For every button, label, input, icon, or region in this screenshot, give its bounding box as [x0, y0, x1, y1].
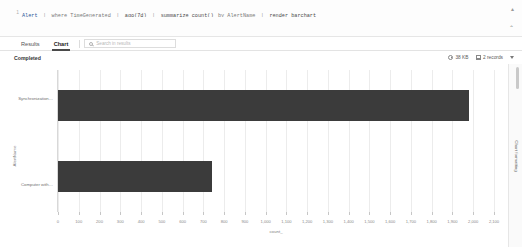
status-badge: Completed [14, 55, 41, 61]
query-token: | [151, 13, 156, 17]
x-axis-tick-label: 700 [200, 219, 207, 224]
x-axis-tick [494, 212, 495, 215]
clock-icon [448, 55, 453, 60]
x-axis-tick-label: 1,500 [364, 219, 374, 224]
x-axis-tick [328, 212, 329, 215]
x-axis-tick-label: 1,100 [281, 219, 291, 224]
bar-chart-plot: count_ 01002003004005006007008009001,000… [57, 70, 494, 212]
line-number: 1 [12, 9, 19, 15]
query-token: render barchart [269, 13, 316, 17]
editor-collapse-icon[interactable]: ▴ [508, 5, 516, 13]
x-axis-tick-label: 1,400 [344, 219, 354, 224]
y-axis-title: AlertName [12, 145, 17, 166]
x-axis-tick [349, 212, 350, 215]
x-axis-tick [245, 212, 246, 215]
x-axis-tick [432, 212, 433, 215]
chevron-down-icon[interactable] [510, 56, 514, 59]
query-token: summarize count() [161, 13, 214, 17]
results-status-bar: Completed 38 KB 2 records [0, 51, 522, 64]
x-axis-tick-label: 1,200 [302, 219, 312, 224]
x-axis-tick-label: 900 [241, 219, 248, 224]
query-token: | [42, 13, 47, 17]
x-axis-tick-label: 0 [57, 219, 59, 224]
x-axis-tick-label: 200 [96, 219, 103, 224]
rows-icon [476, 55, 481, 60]
tab-results[interactable]: Results [14, 37, 47, 51]
editor-expand-icon[interactable]: ⌃ [507, 24, 515, 32]
x-axis-tick [452, 212, 453, 215]
x-axis-tick [58, 212, 59, 215]
status-records: 2 records [476, 55, 504, 60]
x-axis-tick [203, 212, 204, 215]
x-axis-tick-label: 400 [138, 219, 145, 224]
tab-divider [79, 40, 80, 48]
x-axis-tick [224, 212, 225, 215]
x-axis-tick-label: 600 [179, 219, 186, 224]
x-axis-tick-label: 1,300 [323, 219, 333, 224]
search-input[interactable]: Search in results [84, 39, 176, 48]
query-tokens: Alert | where TimeGenerated | ago(7d) | … [22, 7, 316, 17]
x-axis-tick [120, 212, 121, 215]
x-axis-tick [141, 212, 142, 215]
x-axis-tick [411, 212, 412, 215]
grid-line [473, 70, 474, 212]
search-placeholder: Search in results [96, 41, 130, 46]
x-axis-tick-label: 1,800 [427, 219, 437, 224]
y-axis-category-label: Synchronization… [18, 95, 53, 100]
chart-bar[interactable]: Synchronization… [58, 90, 469, 121]
y-axis-category-label: Computer with… [21, 182, 53, 187]
x-axis-tick [390, 212, 391, 215]
chart-bar[interactable]: Computer with… [58, 161, 212, 192]
x-axis-tick [183, 212, 184, 215]
query-text-line[interactable]: 1 Alert | where TimeGenerated | ago(7d) … [12, 7, 510, 17]
x-axis-title: count_ [269, 229, 282, 234]
x-axis-tick [162, 212, 163, 215]
x-axis-tick-label: 300 [117, 219, 124, 224]
rail-label: Chart formatting [513, 140, 518, 171]
tab-chart[interactable]: Chart [47, 37, 76, 51]
results-tabstrip: Results Chart Search in results [0, 37, 522, 51]
search-icon [89, 42, 93, 46]
x-axis-tick [369, 212, 370, 215]
status-metrics: 38 KB 2 records [448, 55, 514, 60]
x-axis-tick [473, 212, 474, 215]
status-size-value: 38 KB [455, 55, 468, 60]
chart-formatting-rail[interactable]: Chart formatting [508, 64, 522, 247]
x-axis-tick-label: 1,000 [260, 219, 270, 224]
x-axis-tick-label: 100 [75, 219, 82, 224]
query-results-page: 1 Alert | where TimeGenerated | ago(7d) … [0, 0, 522, 247]
query-token: | [115, 13, 120, 17]
query-editor[interactable]: 1 Alert | where TimeGenerated | ago(7d) … [0, 0, 522, 37]
x-axis-tick [100, 212, 101, 215]
query-token: by AlertName [218, 13, 255, 17]
x-axis-tick-label: 500 [158, 219, 165, 224]
query-token: ago(7d) [125, 13, 147, 17]
x-axis-tick [79, 212, 80, 215]
x-axis-tick [307, 212, 308, 215]
grid-line [494, 70, 495, 212]
x-axis-tick-label: 1,700 [406, 219, 416, 224]
x-axis-tick [286, 212, 287, 215]
x-axis-tick-label: 800 [221, 219, 228, 224]
x-axis-tick-label: 2,100 [489, 219, 499, 224]
status-size: 38 KB [448, 55, 469, 60]
x-axis-tick-label: 2,000 [468, 219, 478, 224]
x-axis-tick-label: 1,600 [385, 219, 395, 224]
rail-scrollbar[interactable] [516, 67, 519, 89]
query-token: Alert [22, 13, 38, 17]
x-axis-tick [266, 212, 267, 215]
query-token: where TimeGenerated [52, 13, 111, 17]
x-axis-tick-label: 1,900 [447, 219, 457, 224]
status-records-value: 2 records [483, 55, 503, 60]
query-token: | [260, 13, 265, 17]
chart-panel: AlertName count_ 01002003004005006007008… [0, 64, 508, 247]
